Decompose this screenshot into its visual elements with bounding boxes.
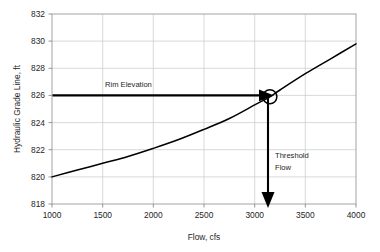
y-axis-title: Hydraulic Grade Line, ft bbox=[12, 64, 22, 153]
ytick-label-828: 828 bbox=[31, 63, 45, 73]
threshold-flow-label-line2: Flow bbox=[275, 163, 292, 172]
ytick-label-818: 818 bbox=[31, 199, 45, 209]
xtick-label-2000: 2000 bbox=[144, 210, 163, 220]
xtick-label-1000: 1000 bbox=[43, 210, 62, 220]
ytick-label-826: 826 bbox=[31, 90, 45, 100]
ytick-label-832: 832 bbox=[31, 9, 45, 19]
chart-container: 832 830 828 826 824 822 820 818 1000 150… bbox=[0, 0, 380, 252]
threshold-flow-label-line1: Threshold bbox=[275, 151, 309, 160]
xtick-label-3000: 3000 bbox=[245, 210, 264, 220]
ytick-label-830: 830 bbox=[31, 36, 45, 46]
xtick-label-1500: 1500 bbox=[93, 210, 112, 220]
ytick-label-820: 820 bbox=[31, 172, 45, 182]
x-axis-title: Flow, cfs bbox=[188, 232, 221, 242]
xtick-label-3500: 3500 bbox=[296, 210, 315, 220]
rim-elevation-label: Rim Elevation bbox=[105, 80, 152, 89]
ytick-label-822: 822 bbox=[31, 145, 45, 155]
ytick-label-824: 824 bbox=[31, 118, 45, 128]
xtick-label-2500: 2500 bbox=[195, 210, 214, 220]
xtick-label-4000: 4000 bbox=[347, 210, 366, 220]
hydraulic-grade-line-chart: 832 830 828 826 824 822 820 818 1000 150… bbox=[0, 0, 380, 252]
